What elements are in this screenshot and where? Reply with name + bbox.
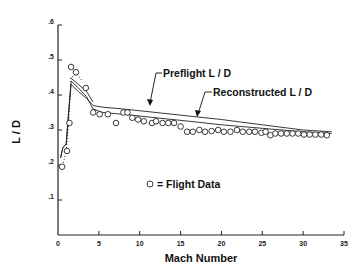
flight-data-point (324, 132, 330, 138)
flight-data-point (290, 131, 296, 137)
flight-data-point (215, 127, 221, 133)
flight-data-point (246, 129, 252, 135)
x-tick-label: 0 (56, 240, 60, 247)
flight-data-point (90, 110, 96, 116)
flight-data-point (202, 129, 208, 135)
flight-data-point (273, 131, 279, 137)
flight-data-point (209, 128, 215, 134)
annotation-reconstructed-leader (198, 92, 212, 114)
flight-data-point (278, 131, 284, 137)
series-line-dotted-trend (62, 74, 82, 169)
flight-data-point (228, 129, 234, 135)
x-tick-label: 35 (340, 240, 348, 247)
flight-data-point (318, 132, 324, 138)
legend: = Flight Data (147, 178, 220, 190)
flight-data-point (221, 129, 227, 135)
y-tick-label: .5 (48, 53, 54, 60)
x-tick-label: 5 (97, 240, 101, 247)
flight-data-point (234, 127, 240, 133)
x-axis-title: Mach Number (165, 252, 238, 264)
flight-data-point (284, 131, 290, 137)
annotation-preflight-label: Preflight L / D (163, 67, 231, 79)
flight-data-point (166, 120, 172, 126)
flight-data-point (252, 129, 258, 135)
flight-data-point (135, 117, 141, 123)
flight-data-point (141, 118, 147, 124)
flight-data-point (64, 148, 70, 154)
flight-data-point (59, 164, 65, 170)
flight-data-point (313, 132, 319, 138)
y-tick-label: .4 (48, 88, 54, 95)
y-tick-label: .6 (48, 18, 54, 25)
flight-data-point (130, 115, 136, 121)
y-tick-label: .3 (48, 123, 54, 130)
flight-data-point (97, 111, 103, 117)
flight-data-point (67, 120, 73, 126)
annotation-reconstructed-label: Reconstructed L / D (213, 86, 312, 98)
x-tick-label: 15 (177, 240, 185, 247)
flight-data-point (68, 64, 74, 70)
flight-data-point (197, 127, 203, 133)
flight-data-point (73, 69, 79, 75)
flight-data-point (105, 111, 111, 117)
x-tick-label: 20 (218, 240, 226, 247)
y-ticks: .1.2.3.4.5.6 (48, 18, 62, 200)
y-axis-title: L / D (10, 120, 22, 144)
flight-data-point (153, 118, 159, 124)
flight-data-point (160, 120, 166, 126)
flight-data-point (178, 124, 184, 130)
annotation-preflight-arrowhead (147, 99, 153, 106)
x-tick-label: 10 (136, 240, 144, 247)
x-tick-label: 25 (258, 240, 266, 247)
y-tick-label: .1 (48, 193, 54, 200)
flight-data-point (263, 129, 269, 135)
flight-data-point (301, 132, 307, 138)
flight-data-point (171, 120, 177, 126)
y-tick-label: .2 (48, 158, 54, 165)
chart: .1.2.3.4.5.6 05101520253035 Mach Number … (0, 0, 362, 276)
series-line-upper-bound (70, 78, 93, 103)
flight-data-point (307, 132, 313, 138)
flight-data-point (184, 129, 190, 135)
flight-data-point (240, 129, 246, 135)
flight-data-point (190, 129, 196, 135)
annotation-reconstructed-arrowhead (195, 110, 201, 117)
x-tick-label: 30 (299, 240, 307, 247)
legend-circle-marker (147, 181, 153, 187)
flight-data-point (295, 131, 301, 137)
flight-data-point (125, 110, 131, 116)
annotation-preflight-leader (150, 73, 162, 103)
flight-data-point (83, 85, 89, 91)
annotation-reconstructed: Reconstructed L / D (195, 86, 312, 117)
flight-data-point (113, 120, 119, 126)
x-ticks: 05101520253035 (56, 231, 348, 247)
legend-label: = Flight Data (157, 178, 220, 190)
